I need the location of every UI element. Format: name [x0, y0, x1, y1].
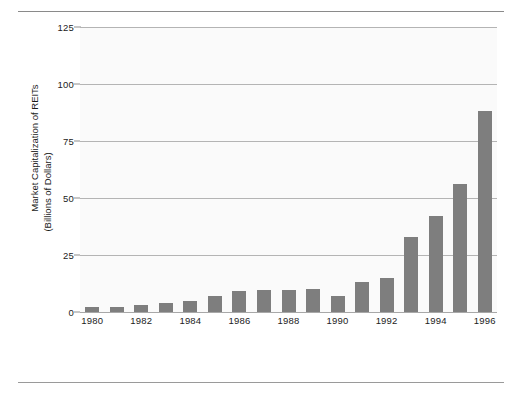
bar-1985: [208, 296, 222, 312]
bar-1981: [110, 307, 124, 312]
gridline: [80, 84, 497, 85]
bar-1994: [429, 216, 443, 312]
x-tick-label: 1986: [228, 315, 250, 326]
x-axis-ticks: 198019821984198619881990199219941996: [80, 315, 497, 335]
y-tick-label: 100: [28, 79, 74, 90]
bar-1993: [404, 237, 418, 312]
x-tick-label: 1990: [327, 315, 349, 326]
bar-1989: [306, 289, 320, 312]
bar-1983: [159, 303, 173, 312]
bar-1987: [257, 290, 271, 312]
x-tick-label: 1996: [474, 315, 496, 326]
bar-1991: [355, 282, 369, 312]
gridline: [80, 312, 497, 313]
bar-1984: [183, 301, 197, 312]
y-tick-label: 50: [28, 193, 74, 204]
y-tick-label: 125: [28, 22, 74, 33]
gridline: [80, 198, 497, 199]
x-tick-label: 1984: [179, 315, 201, 326]
bar-1992: [380, 278, 394, 312]
bar-1982: [134, 305, 148, 312]
y-tick-label: 75: [28, 136, 74, 147]
bar-1986: [232, 291, 246, 312]
y-axis-ticks: 0255075100125: [22, 27, 74, 312]
x-tick-label: 1988: [278, 315, 300, 326]
plot-area: [80, 27, 497, 312]
bar-1980: [85, 307, 99, 312]
x-tick-label: 1982: [130, 315, 152, 326]
figure-bottom-rule: [18, 382, 504, 383]
gridline: [80, 141, 497, 142]
bar-1990: [331, 296, 345, 312]
x-tick-label: 1980: [81, 315, 103, 326]
bar-1995: [453, 184, 467, 312]
x-tick-label: 1994: [425, 315, 447, 326]
gridline: [80, 27, 497, 28]
bar-1988: [282, 290, 296, 312]
figure-top-rule: [18, 11, 504, 12]
y-tick-label: 0: [28, 307, 74, 318]
y-tick-label: 25: [28, 250, 74, 261]
bar-1996: [478, 111, 492, 312]
chart-figure: Market Capitalization of REITs (Billions…: [0, 0, 522, 398]
x-tick-label: 1992: [376, 315, 398, 326]
